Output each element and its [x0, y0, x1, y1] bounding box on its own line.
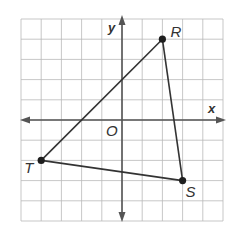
vertex-r-point	[159, 36, 166, 43]
x-axis-left-arrow-icon	[20, 117, 30, 124]
y-axis-label: y	[107, 20, 116, 35]
vertex-t-label: T	[24, 159, 35, 176]
vertex-s-label: S	[186, 183, 196, 200]
vertex-r-label: R	[170, 23, 181, 40]
x-axis-label: x	[207, 101, 216, 116]
edge-rs	[162, 39, 182, 180]
vertex-t-point	[38, 157, 45, 164]
origin-label: O	[106, 122, 118, 139]
y-axis-bottom-arrow-icon	[119, 212, 126, 222]
coordinate-plane: x y O RST	[0, 0, 232, 238]
triangle-rst: RST	[24, 23, 195, 199]
y-axis-top-arrow-icon	[119, 15, 126, 25]
edge-st	[41, 160, 182, 180]
x-axis-right-arrow-icon	[216, 117, 226, 124]
